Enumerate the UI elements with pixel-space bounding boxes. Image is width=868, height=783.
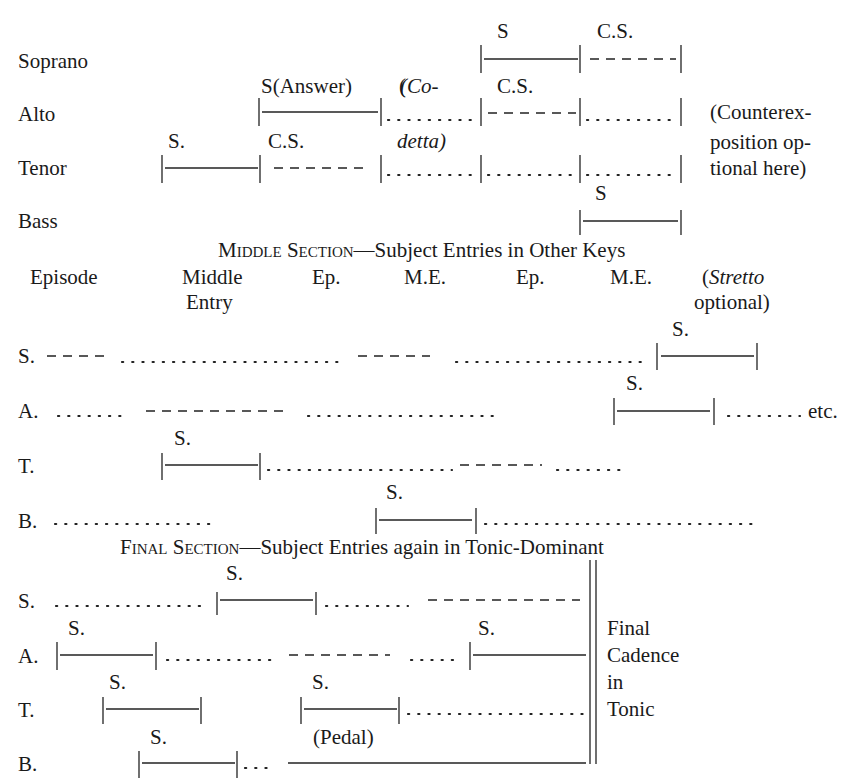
cadence-note-line3: in [607,671,623,693]
counterexposition-note-line2: position op- [710,131,811,153]
final-s-entry-label: S. [226,562,243,584]
final-b-entry-label: S. [150,726,167,748]
tenor-subject-label: S. [168,130,185,152]
middle-s-entry-label: S. [672,318,689,340]
etc-label: etc. [808,400,838,422]
final-voice-s: S. [18,590,35,612]
codetta-label-open: ((Co- [399,75,439,97]
cadence-note-line2: Cadence [607,644,679,666]
cadence-note-line1: Final [607,617,650,639]
stretto-note-line1: (Stretto [702,266,764,288]
voice-label-alto: Alto [18,103,55,125]
middle-t-entry-label: S. [174,427,191,449]
cadence-note-line4: Tonic [607,698,655,720]
column-episode: Episode [30,266,98,288]
final-a-entry-label-1: S. [68,617,85,639]
final-section-heading-rest: —Subject Entries again in Tonic-Dominant [239,535,603,559]
stretto-note-line2: optional) [694,291,770,313]
column-ep-1: Ep. [312,266,341,288]
final-section-heading-caps: Final Section [120,535,239,559]
final-a-entry-label-2: S. [478,617,495,639]
alto-countersubject-label: C.S. [497,75,533,97]
codetta-word-start: (Co- [400,74,439,98]
final-voice-a: A. [18,645,38,667]
column-ep-2: Ep. [516,266,545,288]
bass-subject-label: S [595,182,607,204]
voice-label-tenor: Tenor [18,157,67,179]
middle-voice-b: B. [18,510,37,532]
middle-section-heading: Middle Section—Subject Entries in Other … [218,239,625,261]
counterexposition-note-line3: tional here) [710,157,806,179]
middle-b-entry-label: S. [386,481,403,503]
column-middle-entry: Middle [182,266,243,288]
middle-voice-s: S. [18,345,35,367]
codetta-label-close: detta) [397,130,446,152]
final-voice-b: B. [18,753,37,775]
alto-answer-label: S(Answer) [261,75,352,97]
middle-a-entry-label: S. [626,372,643,394]
voice-label-soprano: Soprano [18,50,88,72]
middle-voice-a: A. [18,400,38,422]
column-middle-entry-sub: Entry [186,291,233,313]
final-voice-t: T. [18,699,35,721]
final-section-heading: Final Section—Subject Entries again in T… [120,536,604,558]
pedal-label: (Pedal) [313,726,374,748]
tenor-countersubject-label: C.S. [268,130,304,152]
column-me-1: M.E. [404,266,446,288]
stretto-paren: ( [702,265,709,289]
final-t-entry-label-2: S. [312,671,329,693]
counterexposition-note-line1: (Counterex- [710,101,811,123]
stretto-word: Stretto [709,265,764,289]
middle-section-heading-rest: —Subject Entries in Other Keys [354,238,626,262]
soprano-countersubject-label: C.S. [597,20,633,42]
final-t-entry-label-1: S. [109,671,126,693]
column-me-2: M.E. [610,266,652,288]
middle-voice-t: T. [18,455,35,477]
voice-label-bass: Bass [18,210,58,232]
middle-section-heading-caps: Middle Section [218,238,354,262]
soprano-subject-label: S [497,20,509,42]
